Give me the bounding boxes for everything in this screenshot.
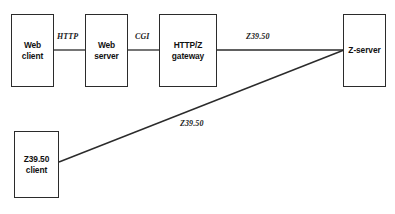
edge-label-http: HTTP bbox=[55, 32, 80, 41]
diagram-canvas: Web client Web server HTTP/Z gateway Z-s… bbox=[0, 0, 395, 214]
web-server-label-line2: server bbox=[94, 51, 119, 62]
z3950-client-box[interactable]: Z39.50 client bbox=[14, 131, 59, 198]
z-server-label-line1: Z-server bbox=[348, 45, 380, 56]
http-z-gateway-box[interactable]: HTTP/Z gateway bbox=[159, 14, 217, 87]
http-z-gateway-label-line1: HTTP/Z bbox=[174, 40, 203, 51]
web-client-label-line1: Web bbox=[24, 40, 41, 51]
http-z-gateway-label-line2: gateway bbox=[172, 51, 204, 62]
edge-label-cgi: CGI bbox=[133, 32, 152, 41]
web-server-label-line1: Web bbox=[98, 40, 115, 51]
z3950-client-label-line1: Z39.50 bbox=[24, 154, 49, 165]
web-client-box[interactable]: Web client bbox=[11, 14, 54, 87]
edge-label-z3950-gateway: Z39.50 bbox=[244, 32, 272, 41]
z-server-box[interactable]: Z-server bbox=[343, 14, 386, 87]
web-client-label-line2: client bbox=[22, 51, 43, 62]
z3950-client-label-line2: client bbox=[26, 165, 47, 176]
edge-label-z3950-direct: Z39.50 bbox=[178, 119, 206, 128]
web-server-box[interactable]: Web server bbox=[85, 14, 128, 87]
